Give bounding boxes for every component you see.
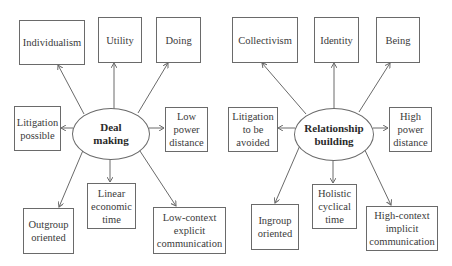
node-low-power-distance: Low power distance [165, 107, 208, 152]
node-utility: Utility [98, 17, 142, 63]
node-being: Being [376, 17, 420, 63]
center-relationship-building: Relationship building [294, 108, 374, 161]
node-low-context-communication: Low-context explicit communication [153, 207, 226, 254]
center-deal-making: Deal making [72, 108, 150, 160]
node-litigation-avoided: Litigation to be avoided [228, 107, 278, 152]
node-doing: Doing [156, 17, 201, 63]
node-collectivism: Collectivism [232, 17, 298, 63]
node-holistic-cyclical-time: Holistic cyclical time [312, 184, 357, 229]
node-high-context-communication: High-context implicit communication [366, 206, 438, 251]
node-linear-economic-time: Linear economic time [87, 183, 136, 229]
node-high-power-distance: High power distance [389, 107, 432, 152]
node-litigation-possible: Litigation possible [14, 106, 61, 151]
node-ingroup-oriented: Ingroup oriented [251, 204, 299, 250]
node-outgroup-oriented: Outgroup oriented [23, 208, 74, 254]
node-individualism: Individualism [19, 20, 85, 65]
node-identity: Identity [314, 17, 359, 63]
